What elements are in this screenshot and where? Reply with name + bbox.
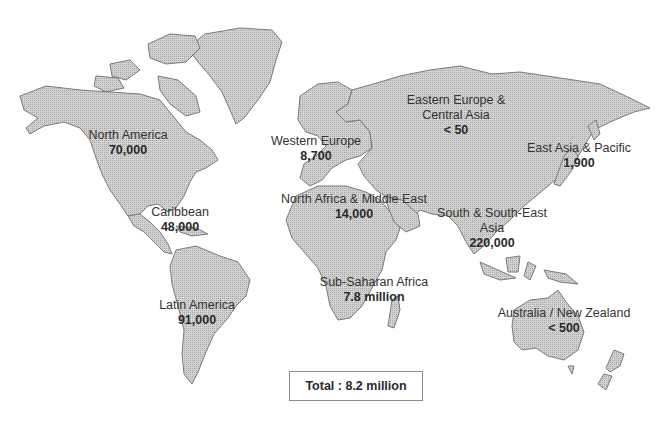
region-name: North America: [88, 128, 167, 143]
region-label-east-asia-pacific: East Asia & Pacific 1,900: [527, 141, 631, 171]
region-label-south-southeast-asia: South & South-East Asia 220,000: [437, 206, 547, 251]
region-name: East Asia & Pacific: [527, 141, 631, 156]
region-value: 1,900: [527, 156, 631, 171]
region-name: Latin America: [159, 298, 235, 313]
region-name: Western Europe: [271, 134, 361, 149]
region-value: < 50: [407, 123, 506, 138]
region-name: Sub-Saharan Africa: [320, 275, 428, 290]
region-value: 8,700: [271, 149, 361, 164]
region-value: 91,000: [159, 313, 235, 328]
region-name: Caribbean: [151, 205, 209, 220]
region-label-australia-new-zealand: Australia / New Zealand < 500: [498, 306, 631, 336]
region-label-caribbean: Caribbean 48,000: [151, 205, 209, 235]
tasmania-shape: [568, 366, 574, 374]
region-name: Australia / New Zealand: [498, 306, 631, 321]
region-name: Eastern Europe &: [407, 93, 506, 108]
region-value: < 500: [498, 321, 631, 336]
total-box: Total : 8.2 million: [289, 371, 423, 401]
indonesia-shape: [480, 256, 578, 284]
region-name: South & South-East: [437, 206, 547, 221]
region-label-eastern-europe-central-asia: Eastern Europe & Central Asia < 50: [407, 93, 506, 138]
region-label-north-america: North America 70,000: [88, 128, 167, 158]
region-value: 14,000: [281, 207, 427, 222]
new-zealand-shape: [598, 350, 624, 390]
greenland-shape: [188, 28, 282, 124]
region-value: 220,000: [437, 236, 547, 251]
region-label-latin-america: Latin America 91,000: [159, 298, 235, 328]
region-label-sub-saharan-africa: Sub-Saharan Africa 7.8 million: [320, 275, 428, 305]
region-name-line2: Asia: [437, 221, 547, 236]
region-name: North Africa & Middle East: [281, 192, 427, 207]
region-name-line2: Central Asia: [407, 108, 506, 123]
region-value: 70,000: [88, 143, 167, 158]
region-value: 48,000: [151, 220, 209, 235]
region-label-north-africa-middle-east: North Africa & Middle East 14,000: [281, 192, 427, 222]
region-label-western-europe: Western Europe 8,700: [271, 134, 361, 164]
region-value: 7.8 million: [320, 290, 428, 305]
